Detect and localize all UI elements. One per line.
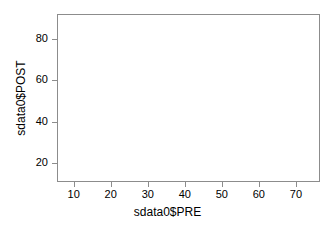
- y-tick-label: 60: [26, 73, 48, 86]
- scatter-plot-figure: 10203040506070 20406080 sdata0$PRE sdata…: [0, 0, 335, 233]
- x-tick-label: 30: [128, 188, 168, 201]
- x-tick-mark: [185, 182, 186, 187]
- x-tick-mark: [148, 182, 149, 187]
- x-tick-mark: [296, 182, 297, 187]
- x-tick-mark: [259, 182, 260, 187]
- y-axis-label: sdata0$POST: [14, 60, 28, 135]
- y-tick-label: 40: [26, 115, 48, 128]
- x-tick-mark: [111, 182, 112, 187]
- x-tick-label: 60: [239, 188, 279, 201]
- plot-data-area: [58, 15, 319, 181]
- x-tick-label: 40: [165, 188, 205, 201]
- y-tick-mark: [52, 39, 57, 40]
- x-tick-mark: [74, 182, 75, 187]
- plot-panel: [57, 14, 320, 182]
- y-tick-mark: [52, 122, 57, 123]
- x-tick-label: 50: [202, 188, 242, 201]
- y-tick-mark: [52, 163, 57, 164]
- x-tick-label: 10: [54, 188, 94, 201]
- y-axis-label-container: sdata0$POST: [13, 0, 29, 196]
- y-tick-label: 80: [26, 32, 48, 45]
- x-tick-mark: [222, 182, 223, 187]
- y-tick-label: 20: [26, 156, 48, 169]
- x-tick-label: 70: [276, 188, 316, 201]
- x-tick-label: 20: [91, 188, 131, 201]
- y-tick-mark: [52, 80, 57, 81]
- x-axis-label: sdata0$PRE: [0, 205, 335, 219]
